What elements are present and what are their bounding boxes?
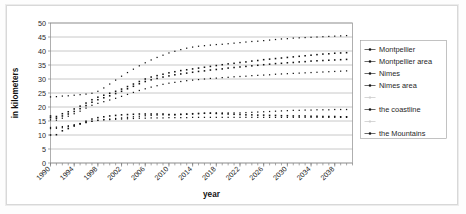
series-6 bbox=[50, 112, 348, 135]
x-tick-label: 2038 bbox=[318, 165, 336, 183]
y-tick-label: 40 bbox=[38, 47, 46, 56]
x-tick-label: 2034 bbox=[295, 165, 313, 183]
x-tick-label: 2010 bbox=[153, 165, 171, 183]
y-axis-ticks: 05101520253035404550 bbox=[38, 19, 51, 168]
legend-label: Montpellier bbox=[379, 45, 416, 54]
gridlines bbox=[51, 23, 353, 163]
y-tick-label: 5 bbox=[42, 145, 46, 154]
y-tick-label: 30 bbox=[38, 75, 46, 84]
y-tick-label: 50 bbox=[38, 19, 46, 28]
x-axis-minor-ticks bbox=[51, 163, 353, 165]
x-tick-label: 2002 bbox=[105, 165, 123, 183]
y-tick-label: 20 bbox=[38, 103, 46, 112]
y-tick-label: 10 bbox=[38, 131, 46, 140]
y-tick-label: 45 bbox=[38, 33, 46, 42]
line-chart: 05101520253035404550 1990199419982002200… bbox=[0, 0, 466, 214]
y-tick-label: 25 bbox=[38, 89, 46, 98]
x-tick-label: 2018 bbox=[200, 165, 218, 183]
y-tick-label: 15 bbox=[38, 117, 46, 126]
legend-label: the coastline bbox=[379, 105, 421, 114]
x-axis-ticks: 1990199419982002200620102014201820222026… bbox=[34, 163, 336, 182]
x-tick-label: 2022 bbox=[224, 165, 242, 183]
series-0 bbox=[50, 109, 347, 129]
x-tick-label: 2014 bbox=[176, 165, 194, 183]
series-layer bbox=[50, 35, 348, 136]
series-4 bbox=[50, 35, 347, 98]
series-5 bbox=[50, 117, 347, 128]
x-axis-title: year bbox=[203, 190, 221, 199]
x-tick-label: 1990 bbox=[34, 165, 52, 183]
x-tick-label: 1994 bbox=[58, 165, 76, 183]
x-tick-label: 2030 bbox=[271, 165, 289, 183]
series-1 bbox=[50, 52, 348, 117]
x-tick-label: 2026 bbox=[247, 165, 265, 183]
x-tick-label: 1998 bbox=[82, 165, 100, 183]
screenshot-root: 05101520253035404550 1990199419982002200… bbox=[0, 0, 466, 214]
legend-label: Montpellier area bbox=[379, 57, 433, 66]
legend-label: the Mountains bbox=[379, 129, 426, 138]
legend-label: Nimes area bbox=[379, 81, 418, 90]
legend-label: Nimes bbox=[379, 69, 400, 78]
y-axis-title: in kilometers bbox=[11, 67, 20, 118]
y-tick-label: 35 bbox=[38, 61, 46, 70]
x-tick-label: 2006 bbox=[129, 165, 147, 183]
chart-legend: MontpellierMontpellier areaNimesNimes ar… bbox=[361, 41, 447, 139]
